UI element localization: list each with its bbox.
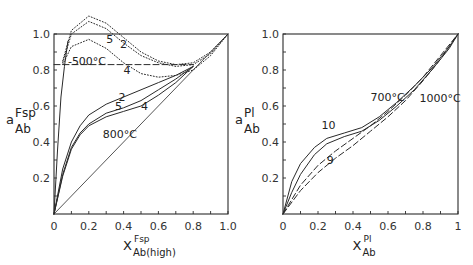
annotation-label: 9 <box>327 154 334 167</box>
y-tick-label: 0.4 <box>262 136 280 149</box>
x-tick-label: 1.0 <box>219 220 237 233</box>
series-line <box>283 34 458 214</box>
series-line <box>283 34 458 214</box>
y-axis-label: a <box>235 112 243 127</box>
x-tick-label: 0 <box>280 220 287 233</box>
annotation-label: 1000°C <box>420 92 461 105</box>
x-tick-label: 0.4 <box>115 220 133 233</box>
annotation-label: 800°C <box>103 128 137 141</box>
annotation-label: 2 <box>120 38 127 51</box>
x-tick-label: 0.4 <box>344 220 362 233</box>
annotation-label: 10 <box>322 119 336 132</box>
series-line <box>283 34 458 214</box>
y-axis-label-sup: Pl <box>244 106 255 120</box>
x-tick-label: 0.8 <box>184 220 202 233</box>
x-axis-label-sup: Fsp <box>134 234 150 244</box>
y-axis-label-sup: Fsp <box>15 106 36 120</box>
y-tick-label: 1.0 <box>262 28 280 41</box>
annotation-label: 4 <box>124 64 131 77</box>
y-tick-label: 0.8 <box>33 64 51 77</box>
y-tick-label: 0.8 <box>262 64 280 77</box>
y-axis-label-sub: Ab <box>244 122 260 136</box>
x-tick-label: 0.2 <box>80 220 98 233</box>
annotation-label: 700°C <box>371 91 405 104</box>
annotation-label: 5 <box>106 33 113 46</box>
x-axis-label: X <box>123 238 132 253</box>
y-tick-label: 0.2 <box>33 172 51 185</box>
y-axis-label: a <box>6 112 14 127</box>
series-line <box>283 34 458 214</box>
x-axis-label-sub: Ab(high) <box>133 247 176 258</box>
x-tick-label: 0.2 <box>309 220 327 233</box>
x-tick-label: 1 <box>455 220 462 233</box>
y-axis-label-sub: Ab <box>15 122 31 136</box>
x-tick-label: 0.8 <box>414 220 432 233</box>
annotation-label: 5 <box>115 100 122 113</box>
annotation-label: -500°C <box>68 55 106 68</box>
plot-frame <box>283 34 458 214</box>
figure: 00.20.40.60.81.00.20.40.60.81.0-500°C800… <box>0 0 473 265</box>
x-axis-label: X <box>353 238 362 253</box>
x-axis-label-sup: Pl <box>364 234 372 244</box>
x-tick-label: 0.6 <box>150 220 168 233</box>
y-tick-label: 0.4 <box>33 136 51 149</box>
y-tick-label: 0.6 <box>262 100 280 113</box>
annotation-label: 4 <box>141 100 148 113</box>
x-axis-label-sub: Ab <box>363 247 376 258</box>
right-plot: 00.20.40.60.810.20.40.60.81.0700°C1000°C… <box>235 28 462 258</box>
y-tick-label: 1.0 <box>33 28 51 41</box>
left-plot: 00.20.40.60.81.00.20.40.60.81.0-500°C800… <box>6 16 237 258</box>
y-tick-label: 0.2 <box>262 172 280 185</box>
x-tick-label: 0 <box>51 220 58 233</box>
x-tick-label: 0.6 <box>379 220 397 233</box>
series-line <box>54 41 68 214</box>
